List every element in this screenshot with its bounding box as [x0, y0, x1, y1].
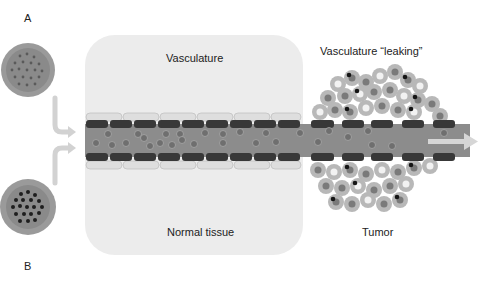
label-vasculature-normal: Vasculature: [166, 52, 223, 64]
label-tumor: Tumor: [362, 226, 393, 238]
label-a: A: [24, 12, 31, 24]
particle-a-icon: [1, 43, 55, 97]
arrowhead-b-icon: [68, 142, 76, 154]
arrowhead-a-icon: [68, 126, 76, 138]
label-b: B: [24, 260, 31, 272]
diagram-canvas: [0, 0, 503, 286]
label-vasculature-leaking: Vasculature “leaking”: [320, 45, 423, 57]
particle-b-icon: [0, 179, 56, 235]
label-normal-tissue: Normal tissue: [167, 226, 234, 238]
arrow-b-to-vessel: [55, 148, 70, 183]
arrow-a-to-vessel: [55, 98, 70, 132]
